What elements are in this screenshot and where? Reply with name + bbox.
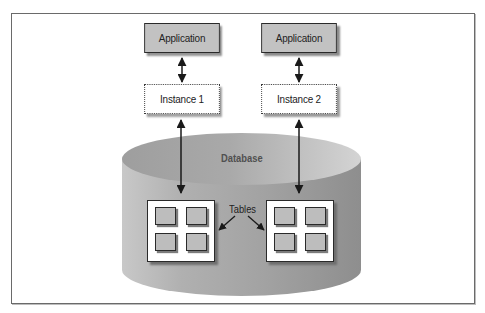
table-icon	[274, 233, 295, 251]
table-icon	[155, 233, 176, 251]
table-icon	[305, 233, 326, 251]
table-icon	[274, 207, 295, 225]
application-box-2: Application	[261, 23, 337, 53]
instance-box-2: Instance 2	[261, 84, 337, 114]
table-group-right	[266, 200, 334, 262]
instance-box-1: Instance 1	[144, 84, 220, 114]
database-label: Database	[221, 152, 263, 164]
table-icon	[155, 207, 176, 225]
tables-label: Tables	[229, 203, 256, 215]
table-icon	[186, 207, 207, 225]
application-label-1: Application	[159, 32, 205, 44]
instance-label-2: Instance 2	[277, 93, 321, 105]
application-box-1: Application	[144, 23, 220, 53]
table-group-left	[147, 200, 215, 262]
instance-label-1: Instance 1	[160, 93, 204, 105]
table-icon	[305, 207, 326, 225]
application-label-2: Application	[276, 32, 322, 44]
table-icon	[186, 233, 207, 251]
